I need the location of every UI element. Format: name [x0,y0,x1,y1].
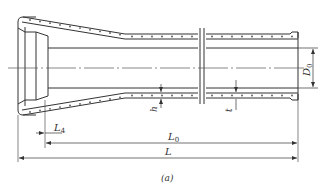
bell-inner-top [18,28,48,36]
label-t: t [224,108,234,112]
label-D0: D0 [301,64,314,78]
figure-caption: (a) [161,173,174,183]
pipe-outline [18,17,298,115]
top-wall-outer [23,17,298,38]
top-wall-inner [22,22,298,39]
bell-inner-bottom [18,96,48,104]
pipe-diagram: D0 h t L4 L0 L (a) [0,0,324,189]
bottom-wall-inner [22,93,298,110]
label-h: h [149,106,159,112]
label-L0: L0 [167,131,179,144]
label-L: L [164,146,172,157]
bottom-wall-outer [23,94,298,115]
wall-reinforcement-dots [29,19,293,113]
